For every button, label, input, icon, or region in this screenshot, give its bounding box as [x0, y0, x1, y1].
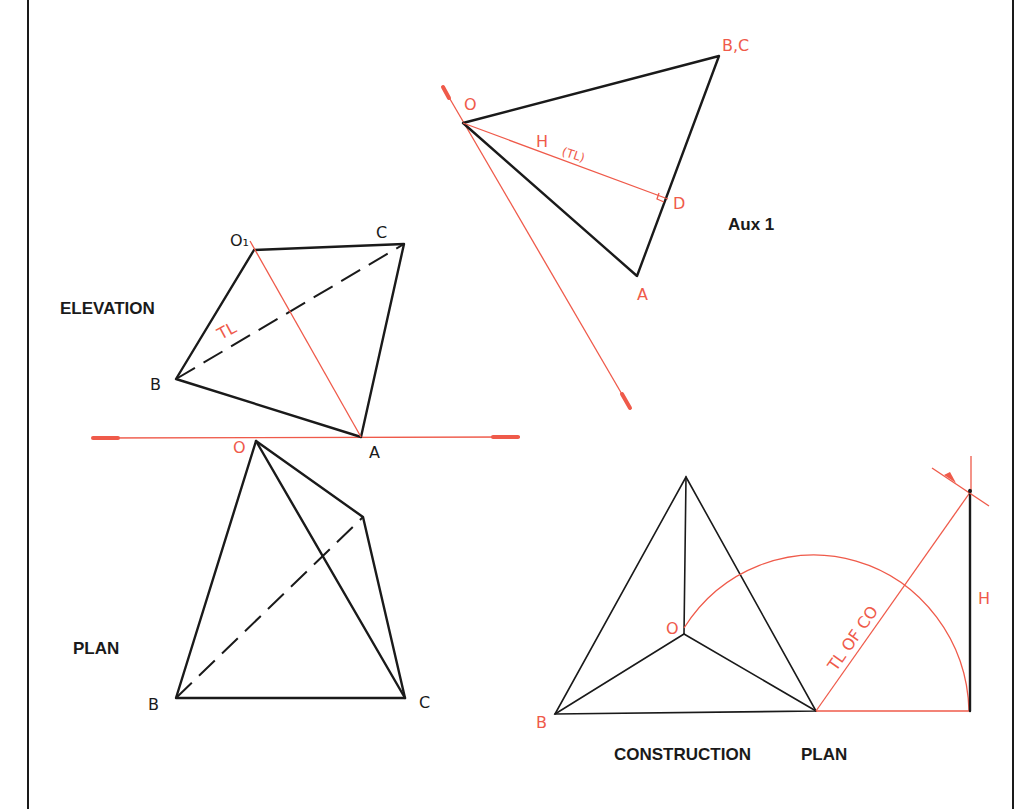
elevation-title: ELEVATION: [60, 299, 155, 318]
xy-ground-line: [92, 437, 520, 438]
aux1-triangle: [463, 56, 719, 276]
plan-view: O B C PLAN: [73, 438, 430, 714]
tl-of-co-line: [816, 491, 971, 711]
aux1-label-a: A: [637, 285, 648, 304]
aux-line-end-marker: [443, 87, 449, 98]
aux1-title: Aux 1: [728, 215, 774, 234]
construction-label-b: B: [536, 713, 547, 732]
plan-label-c: C: [419, 693, 430, 712]
construction-arc: [684, 555, 969, 711]
plan-outline: [176, 441, 405, 698]
elevation-label-b: B: [150, 375, 161, 394]
elevation-label-o1: O₁: [230, 231, 249, 250]
aux1-label-o: O: [464, 95, 477, 114]
technical-drawing: O B,C A D H (TL) Aux 1 O₁ C B A TL ELEVA…: [0, 0, 1035, 809]
aux1-label-h: H: [536, 132, 548, 151]
plan-edge-oc: [256, 441, 405, 698]
elevation-view: O₁ C B A TL ELEVATION: [60, 223, 520, 462]
construction-title-plan: PLAN: [801, 745, 847, 764]
aux1-height-line: [463, 123, 668, 199]
construction-label-tl-of-co: TL OF CO: [823, 602, 882, 675]
elevation-label-tl: TL: [213, 318, 239, 344]
construction-edge-o-c: [684, 634, 816, 711]
construction-edge-o-b: [555, 634, 684, 714]
apex-point: [968, 489, 972, 493]
plan-title: PLAN: [73, 639, 119, 658]
elevation-label-a: A: [369, 443, 380, 462]
construction-plan-view: O B TL OF CO H CONSTRUCTION PLAN: [536, 456, 990, 764]
construction-title: CONSTRUCTION: [614, 745, 751, 764]
plan-label-b: B: [148, 695, 159, 714]
aux1-label-tl: (TL): [560, 145, 587, 166]
construction-label-o: O: [666, 619, 679, 638]
plan-label-o: O: [233, 438, 246, 457]
aux1-view: O B,C A D H (TL) Aux 1: [443, 36, 774, 408]
aux-line-end-marker: [622, 394, 630, 408]
elevation-outline: [176, 244, 404, 437]
arrow-line: [932, 468, 989, 506]
aux1-label-bc: B,C: [722, 36, 749, 55]
elevation-label-c: C: [376, 223, 387, 242]
construction-label-h: H: [978, 589, 990, 608]
construction-edge-o-top: [684, 477, 686, 634]
aux1-label-d: D: [673, 194, 685, 213]
